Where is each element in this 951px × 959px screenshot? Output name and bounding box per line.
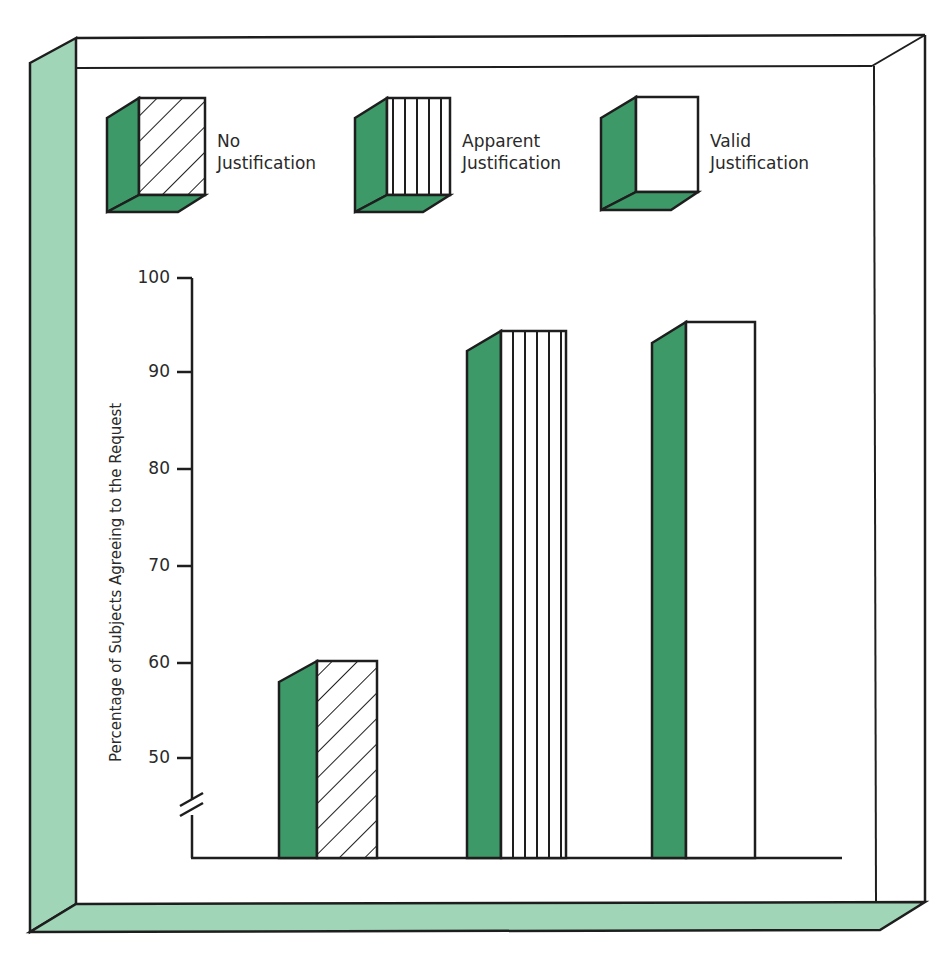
chart-figure: No Justification Apparent Justification … [0, 0, 951, 959]
y-tick-label-100: 100 [120, 267, 170, 287]
frame-bottom-panel [30, 902, 925, 932]
frame-left-panel [30, 38, 76, 932]
y-tick-label-50: 50 [120, 747, 170, 767]
legend-icon-valid-justification [601, 97, 698, 210]
y-tick-label-60: 60 [120, 652, 170, 672]
legend-label-no-justification: No Justification [217, 130, 316, 174]
legend-label-apparent-justification: Apparent Justification [462, 130, 561, 174]
y-tick-label-70: 70 [120, 555, 170, 575]
legend-label-line1: No [217, 130, 316, 152]
y-axis-label: Percentage of Subjects Agreeing to the R… [107, 403, 125, 762]
legend-label-line2: Justification [217, 152, 316, 174]
legend-label-line1: Apparent [462, 130, 561, 152]
legend-icon-apparent-justification [355, 98, 450, 212]
bar-no-justification [279, 661, 377, 858]
bar-apparent-justification [467, 331, 566, 858]
legend-label-line2: Justification [462, 152, 561, 174]
legend-label-line2: Justification [710, 152, 809, 174]
legend-label-line1: Valid [710, 130, 809, 152]
y-tick-label-80: 80 [120, 458, 170, 478]
legend-label-valid-justification: Valid Justification [710, 130, 809, 174]
legend-icon-no-justification [107, 98, 205, 212]
bar-valid-justification [652, 322, 755, 858]
y-tick-label-90: 90 [120, 361, 170, 381]
